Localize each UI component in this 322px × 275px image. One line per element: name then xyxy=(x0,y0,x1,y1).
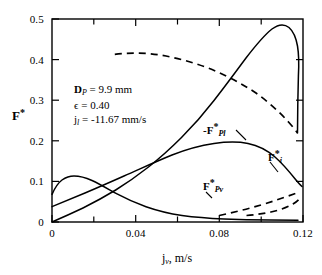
y-axis-title-symbol: F xyxy=(12,108,20,123)
annotation-line-liquid-flux: jl = -11.67 mm/s xyxy=(74,113,146,129)
annotation-value-dp: = 9.9 mm xyxy=(87,83,132,95)
figure-chart-container: 0.5 0.4 0.3 0.2 0.1 0 0 0.04 0.08 0.12 F… xyxy=(0,0,322,275)
curve-label-fi-subscript: i xyxy=(280,156,282,165)
x-tick-label-0.08: 0.08 xyxy=(209,227,229,239)
curve-fi-solid xyxy=(52,142,302,206)
x-axis-title: jv, m/s xyxy=(162,251,192,266)
x-axis-minor-ticks-top xyxy=(94,19,261,25)
annotation-value-jl: = -11.67 mm/s xyxy=(79,113,146,125)
curve-label-fpl-subscript: Pl xyxy=(218,129,225,138)
x-tick-label-0: 0 xyxy=(49,227,55,239)
x-tick-label-0.04: 0.04 xyxy=(126,227,146,239)
curve-label-fi-symbol: F xyxy=(268,151,275,163)
annotation-symbol-dp: D xyxy=(74,83,82,95)
y-axis-title: F* xyxy=(12,107,25,124)
annotation-line-porosity: ϵ = 0.40 xyxy=(74,99,146,113)
curve-label-fpl: -F*Pl xyxy=(203,121,226,138)
annotation-value-epsilon: = 0.40 xyxy=(78,99,109,111)
parameter-annotation-block: DP = 9.9 mm ϵ = 0.40 jl = -11.67 mm/s xyxy=(74,83,146,129)
y-tick-label-0.3: 0.3 xyxy=(0,94,44,106)
curve-label-fpv-subscript: Pv xyxy=(215,185,223,194)
y-axis-title-star: * xyxy=(20,107,25,118)
curve-label-fpv: F*Pv xyxy=(203,177,223,194)
y-tick-label-0.1: 0.1 xyxy=(0,175,44,187)
curve-lower-dashed-a xyxy=(219,193,297,216)
y-tick-label-0.2: 0.2 xyxy=(0,135,44,147)
x-axis-title-units: , m/s xyxy=(169,251,192,265)
curve-label-fpv-symbol: F xyxy=(203,180,210,192)
annotation-line-particle-diameter: DP = 9.9 mm xyxy=(74,83,146,99)
curve-label-fi: F*i xyxy=(268,148,282,165)
y-tick-label-0.4: 0.4 xyxy=(0,54,44,66)
y-tick-label-0: 0 xyxy=(0,216,44,228)
y-tick-label-0.5: 0.5 xyxy=(0,13,44,25)
x-tick-label-0.12: 0.12 xyxy=(293,227,313,239)
leader-line-fpl xyxy=(236,130,246,140)
